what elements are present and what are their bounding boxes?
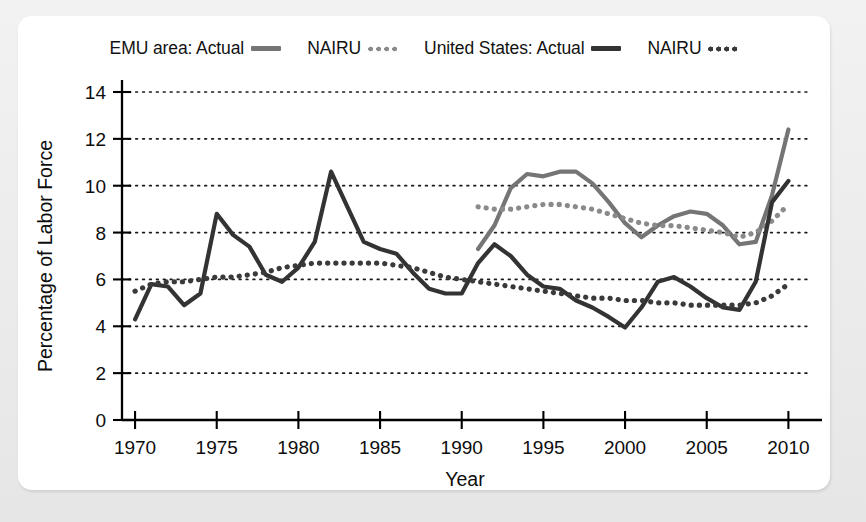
x-tick-label: 1970: [114, 437, 156, 458]
x-tick-label: 2005: [686, 437, 728, 458]
y-axis-ticks: 02468101214: [85, 82, 131, 431]
x-tick-label: 1980: [277, 437, 319, 458]
x-tick-label: 1990: [441, 437, 483, 458]
data-series-layer: [135, 129, 788, 327]
x-tick-label: 1995: [522, 437, 564, 458]
x-tick-label: 2000: [604, 437, 646, 458]
y-axis-title: Percentage of Labor Force: [34, 140, 56, 372]
x-tick-label: 1975: [196, 437, 238, 458]
y-tick-label: 2: [95, 363, 106, 384]
chart-card: EMU area: Actual NAIRU United States: Ac…: [18, 16, 830, 490]
y-tick-label: 6: [95, 269, 106, 290]
x-tick-label: 2010: [767, 437, 809, 458]
y-tick-label: 0: [95, 410, 106, 431]
series-line-emu_actual: [478, 129, 788, 248]
axis-lines: [122, 80, 822, 420]
y-tick-label: 14: [85, 82, 107, 103]
x-axis-title: Year: [445, 468, 485, 490]
y-tick-label: 10: [85, 176, 106, 197]
x-tick-label: 1985: [359, 437, 401, 458]
y-tick-label: 8: [95, 223, 106, 244]
y-tick-label: 4: [95, 316, 106, 337]
y-tick-label: 12: [85, 129, 106, 150]
line-chart-plot: 02468101214 1970197519801985199019952000…: [18, 16, 830, 490]
figure-root: EMU area: Actual NAIRU United States: Ac…: [0, 0, 866, 522]
gridlines: [122, 92, 808, 373]
x-axis-ticks: 197019751980198519901995200020052010: [114, 411, 810, 458]
